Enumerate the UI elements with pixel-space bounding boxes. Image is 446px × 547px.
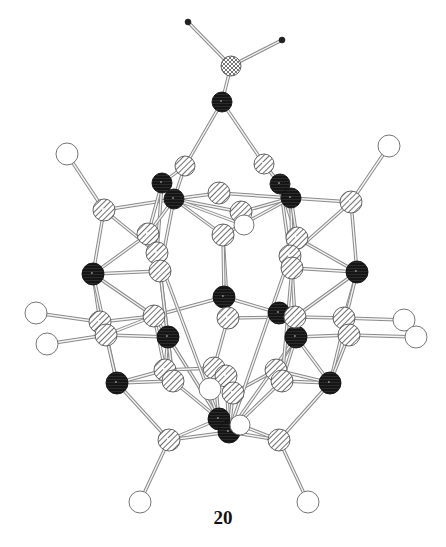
atom-dark [285,326,307,348]
atom-dark [213,286,235,308]
atom-open [56,143,78,165]
atom-hatch [284,306,306,328]
atom-dark [212,92,232,112]
atom-open [405,326,427,348]
atom-hatch [340,191,362,213]
atom-hatch [208,182,230,204]
atom-hatch [254,154,274,174]
atom-open [234,215,254,235]
atom-open [199,378,221,400]
atom-open [25,302,47,324]
atom-dot [185,19,191,25]
atom-hatch [162,370,184,392]
atom-dark [157,326,179,348]
atom-hatch [222,382,244,404]
atom-dark [164,189,184,209]
atom-open [230,415,250,435]
atom-dark [106,372,128,394]
atom-hatch [268,429,290,451]
atom-open [378,135,400,157]
atom-hatch [149,260,171,282]
atom-hatch [158,429,180,451]
atom-dark [281,188,301,208]
atom-dot [279,37,285,43]
atom-cross [221,56,241,76]
atom-hatch [143,305,165,327]
atom-hatch [281,257,303,279]
atom-hatch [271,370,293,392]
atom-dark [319,372,341,394]
atom-dark [346,261,368,283]
atom-dark [82,263,104,285]
atom-hatch [93,199,115,221]
atom-hatch [338,324,360,346]
atom-hatch [95,324,117,346]
atom-hatch [212,224,234,246]
figure-label: 20 [0,507,446,529]
molecular-structure-diagram [0,0,446,547]
atom-open [36,333,58,355]
atom-hatch [175,156,195,176]
atom-hatch [217,307,239,329]
